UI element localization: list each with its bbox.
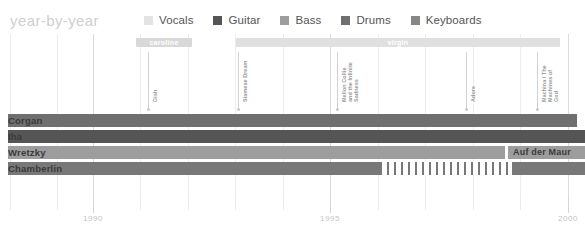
member-segment[interactable]: [8, 114, 577, 127]
member-segment[interactable]: [380, 162, 510, 175]
album-title: Siamese Dream: [242, 61, 248, 102]
member-segment[interactable]: [8, 130, 585, 143]
axis-year-label: 1995: [320, 214, 340, 223]
album-marker-line: [537, 52, 538, 110]
axis-tick: [57, 196, 58, 210]
axis-year-label: 2000: [558, 214, 578, 223]
time-axis: 199019952000: [0, 196, 585, 237]
legend-swatch-icon: [280, 16, 289, 25]
legend: VocalsGuitarBassDrumsKeyboards: [144, 14, 502, 26]
legend-label: Keyboards: [426, 14, 482, 26]
member-row-wretzky[interactable]: Auf der MaurWretzky: [0, 146, 585, 159]
axis-tick: [235, 196, 236, 210]
member-segment[interactable]: [8, 162, 380, 175]
member-segment-label: Auf der Maur: [508, 146, 571, 159]
chart-header: year-by-year VocalsGuitarBassDrumsKeyboa…: [0, 12, 585, 34]
album-title: Adore: [470, 86, 476, 102]
chart-canvas: year-by-year VocalsGuitarBassDrumsKeyboa…: [0, 0, 585, 237]
album-marker-dot-icon: [465, 108, 468, 111]
legend-swatch-icon: [411, 16, 420, 25]
album-title: Mellon Collie and the Infinite Sadness: [341, 58, 359, 102]
album-marker-line: [238, 52, 239, 110]
legend-label: Bass: [295, 14, 321, 26]
page-title: year-by-year: [10, 12, 99, 29]
album-marker-line: [148, 52, 149, 110]
axis-tick: [520, 196, 521, 210]
member-segment[interactable]: [8, 146, 505, 159]
legend-item-keyboards[interactable]: Keyboards: [411, 14, 482, 26]
axis-tick: [93, 196, 94, 213]
legend-swatch-icon: [341, 16, 350, 25]
axis-tick: [473, 196, 474, 210]
legend-label: Vocals: [159, 14, 193, 26]
legend-label: Drums: [356, 14, 390, 26]
member-segment[interactable]: [512, 162, 585, 175]
legend-item-guitar[interactable]: Guitar: [213, 14, 260, 26]
axis-tick: [425, 196, 426, 210]
legend-item-bass[interactable]: Bass: [280, 14, 321, 26]
record-label-bar-caroline[interactable]: caroline: [136, 38, 192, 47]
album-marker-dot-icon: [536, 108, 539, 111]
album-marker-dot-icon: [237, 108, 240, 111]
axis-tick: [10, 196, 11, 210]
album-marker-line: [337, 52, 338, 110]
legend-label: Guitar: [228, 14, 260, 26]
member-row-iha[interactable]: Iha: [0, 130, 585, 143]
axis-tick: [330, 196, 331, 213]
legend-swatch-icon: [144, 16, 153, 25]
album-marker-line: [466, 52, 467, 110]
axis-tick: [568, 196, 569, 213]
album-title: Gish: [152, 90, 158, 102]
album-marker-dot-icon: [147, 108, 150, 111]
legend-swatch-icon: [213, 16, 222, 25]
album-title: Machina / The Machines of God: [541, 58, 559, 102]
axis-tick: [188, 196, 189, 210]
axis-tick: [140, 196, 141, 210]
legend-item-drums[interactable]: Drums: [341, 14, 390, 26]
record-label-bar-virgin[interactable]: virgin: [236, 38, 560, 47]
axis-tick: [283, 196, 284, 210]
axis-year-label: 1990: [83, 214, 103, 223]
member-row-corgan[interactable]: Corgan: [0, 114, 585, 127]
member-row-chamberlin[interactable]: Chamberlin: [0, 162, 585, 175]
axis-tick: [378, 196, 379, 210]
legend-item-vocals[interactable]: Vocals: [144, 14, 193, 26]
album-marker-dot-icon: [336, 108, 339, 111]
